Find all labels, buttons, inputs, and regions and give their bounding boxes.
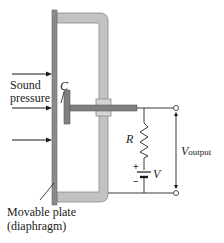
output-arrow-top xyxy=(174,112,178,116)
output-label: Voutput xyxy=(181,145,211,157)
battery-minus: − xyxy=(133,177,139,187)
circuit-wires xyxy=(108,108,176,193)
movable-plate xyxy=(52,10,57,205)
battery-plus: + xyxy=(133,162,139,172)
output-label-sub: output xyxy=(188,147,211,157)
resistor xyxy=(140,123,148,158)
resistor-label: R xyxy=(126,133,133,145)
plate-label-1: Movable plate xyxy=(7,206,76,218)
capacitor-label: C xyxy=(60,80,68,92)
sound-label-2: pressure xyxy=(10,92,50,104)
capacitor-leader xyxy=(61,92,64,103)
battery-label: V xyxy=(153,168,160,180)
plate-rod xyxy=(70,105,137,111)
terminal-top xyxy=(174,106,179,111)
output-arrow-bottom xyxy=(174,185,178,189)
battery xyxy=(137,172,151,177)
fixed-plate xyxy=(64,90,70,124)
plate-label-2: (diaphragm) xyxy=(7,220,66,232)
sound-label-1: Sound xyxy=(10,79,41,91)
terminal-bottom xyxy=(174,191,179,196)
